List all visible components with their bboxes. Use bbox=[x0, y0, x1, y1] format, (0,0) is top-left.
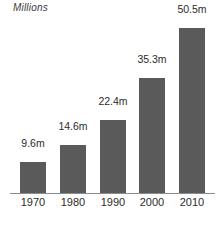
category-label-1980: 1980 bbox=[53, 196, 93, 208]
category-label-1970: 1970 bbox=[13, 196, 53, 208]
bar-rect[interactable] bbox=[20, 162, 46, 193]
bar-value-label: 50.5m bbox=[172, 3, 212, 15]
bar-group: 35.3m bbox=[132, 0, 172, 193]
bar-group: 22.4m bbox=[93, 0, 133, 193]
bar-rect[interactable] bbox=[139, 78, 165, 193]
bar-rect[interactable] bbox=[100, 120, 126, 193]
plot-area: 9.6m 14.6m 22.4m 35.3m 50.5m bbox=[0, 0, 222, 193]
bar-chart: Millions 9.6m 14.6m 22.4m 35.3m 50.5m 19… bbox=[0, 0, 222, 228]
bar-value-label: 14.6m bbox=[53, 120, 93, 132]
category-axis: 1970 1980 1990 2000 2010 bbox=[0, 196, 222, 216]
bar-rect[interactable] bbox=[179, 28, 205, 193]
category-label-2010: 2010 bbox=[172, 196, 212, 208]
bar-value-label: 35.3m bbox=[132, 53, 172, 65]
bar-group: 9.6m bbox=[13, 0, 53, 193]
bar-rect[interactable] bbox=[60, 145, 86, 193]
baseline-axis bbox=[10, 193, 215, 194]
bar-group: 14.6m bbox=[53, 0, 93, 193]
bar-group: 50.5m bbox=[172, 0, 212, 193]
category-label-1990: 1990 bbox=[93, 196, 133, 208]
bar-value-label: 9.6m bbox=[13, 137, 53, 149]
bar-value-label: 22.4m bbox=[93, 95, 133, 107]
category-label-2000: 2000 bbox=[132, 196, 172, 208]
